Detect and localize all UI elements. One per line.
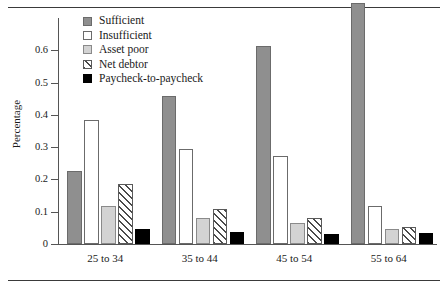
y-axis-tick-label: 0.2 (35, 174, 48, 185)
legend-swatch-icon (83, 60, 92, 69)
chart-figure: 00.10.20.30.40.50.6 Percentage 25 to 343… (0, 0, 448, 294)
bar (351, 3, 366, 244)
bar (368, 206, 383, 244)
legend-label: Net debtor (99, 59, 148, 71)
y-axis-tick-label: 0.5 (35, 78, 48, 89)
bar (162, 96, 177, 244)
y-axis-tick (51, 212, 58, 213)
bar (67, 171, 82, 244)
y-axis-tick-label: 0.6 (35, 45, 48, 56)
legend-swatch-icon (83, 17, 92, 26)
bar (273, 156, 288, 244)
x-axis-tick-label: 45 to 54 (247, 252, 342, 264)
bar (84, 120, 99, 244)
chart-legend: SufficientInsufficientAsset poorNet debt… (83, 14, 203, 86)
x-axis-line (58, 244, 437, 245)
legend-item: Net debtor (83, 57, 203, 71)
legend-label: Paycheck-to-paycheck (99, 73, 203, 85)
bar (419, 233, 434, 244)
y-axis-title: Percentage (10, 64, 22, 184)
y-axis-tick (51, 115, 58, 116)
y-axis-tick (51, 244, 58, 245)
bar (196, 218, 211, 244)
legend-label: Insufficient (99, 30, 152, 42)
y-axis-tick-labels: 00.10.20.30.40.50.6 (0, 0, 48, 294)
bar (135, 229, 150, 244)
y-axis-tick (51, 83, 58, 84)
y-axis-tick (51, 179, 58, 180)
bar (213, 209, 228, 245)
bar (230, 232, 245, 244)
top-rule (8, 7, 440, 8)
bar (402, 227, 417, 244)
bar-group (342, 18, 437, 244)
y-axis-tick-label: 0 (43, 239, 48, 250)
y-axis-tick-label: 0.3 (35, 142, 48, 153)
legend-item: Insufficient (83, 28, 203, 42)
legend-label: Sufficient (99, 15, 144, 27)
legend-swatch-icon (83, 74, 92, 83)
x-axis-tick-label: 35 to 44 (153, 252, 248, 264)
legend-swatch-icon (83, 45, 92, 54)
bar (179, 149, 194, 244)
legend-label: Asset poor (99, 44, 149, 56)
bar (307, 218, 322, 244)
legend-item: Asset poor (83, 43, 203, 57)
bar (118, 184, 133, 244)
y-axis-tick-label: 0.4 (35, 110, 48, 121)
bar-group (247, 18, 342, 244)
bar (290, 223, 305, 244)
y-axis-tick-label: 0.1 (35, 207, 48, 218)
x-axis-tick-label: 25 to 34 (58, 252, 153, 264)
legend-swatch-icon (83, 31, 92, 40)
bottom-rule (8, 280, 440, 281)
bar (101, 206, 116, 244)
y-axis-tick (51, 50, 58, 51)
bar (324, 234, 339, 244)
x-axis-tick-label: 55 to 64 (342, 252, 437, 264)
bar (256, 46, 271, 244)
legend-item: Paycheck-to-paycheck (83, 72, 203, 86)
y-axis-tick (51, 147, 58, 148)
bar (385, 229, 400, 244)
legend-item: Sufficient (83, 14, 203, 28)
